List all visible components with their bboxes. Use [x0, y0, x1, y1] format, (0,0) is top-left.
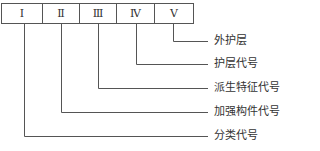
connector-2 [62, 24, 209, 113]
label-strength-member-code: 加强构件代号 [214, 106, 280, 118]
connector-3 [99, 24, 209, 89]
connector-1 [25, 24, 209, 137]
connector-5 [174, 24, 209, 42]
label-sheath-code: 护层代号 [214, 58, 258, 70]
connector-4 [137, 24, 209, 65]
label-derived-feature-code: 派生特征代号 [214, 82, 280, 94]
label-outer-sheath: 外护层 [214, 35, 247, 47]
label-category-code: 分类代号 [214, 130, 258, 142]
